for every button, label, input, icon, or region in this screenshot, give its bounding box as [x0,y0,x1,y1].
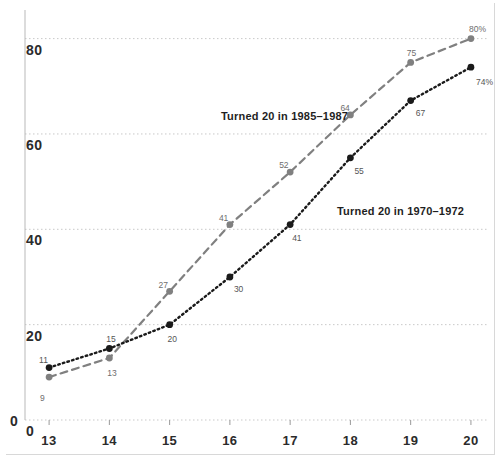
data-point-label: 27 [159,280,168,290]
data-point-label: 80% [469,24,486,34]
data-point [166,321,173,328]
x-axis-tick-16: 16 [222,433,237,448]
data-point [46,374,53,381]
chart-screenshot: 0204060801314151617181920091327415264758… [0,0,502,466]
data-point [468,64,475,71]
data-point [106,355,113,362]
x-axis-tick-20: 20 [463,433,478,448]
data-point-label: 9 [40,393,45,403]
y-axis-tick-20: 20 [26,328,43,344]
data-point [226,274,233,281]
x-axis-tick-18: 18 [343,433,358,448]
data-point [106,345,113,352]
data-point-label: 52 [279,160,288,170]
data-point [407,97,414,104]
data-point-label: 75 [407,48,416,58]
x-axis-tick-15: 15 [162,433,177,448]
data-point-label: 30 [234,284,243,294]
x-axis-tick-19: 19 [403,433,418,448]
data-point-label: 74% [476,77,493,87]
x-axis-tick-17: 17 [282,433,297,448]
series-annotation-1: Turned 20 in 1970–1972 [337,205,464,217]
data-point-label: 13 [107,368,116,378]
data-point-label: 67 [416,108,425,118]
data-point [46,364,53,371]
data-point-label: 55 [354,166,363,176]
series-annotation-0: Turned 20 in 1985–1987 [221,110,348,122]
data-point-label: 41 [292,233,301,243]
data-point-label: 20 [168,334,177,344]
y-axis-tick-60: 60 [26,137,43,153]
data-point-label: 41 [219,213,228,223]
data-point [287,221,294,228]
y-axis-tick-0: 0 [26,423,34,439]
data-point [407,59,414,66]
y-axis-tick-80: 80 [26,42,43,58]
x-axis-tick-14: 14 [102,433,117,448]
y-axis-tick-40: 40 [26,232,43,248]
line-chart-plot [0,0,502,466]
origin-label: 0 [10,413,18,429]
x-axis-tick-13: 13 [41,433,56,448]
data-point-label: 15 [106,334,115,344]
data-point-label: 11 [39,355,48,365]
data-point [468,35,475,42]
data-point [347,154,354,161]
